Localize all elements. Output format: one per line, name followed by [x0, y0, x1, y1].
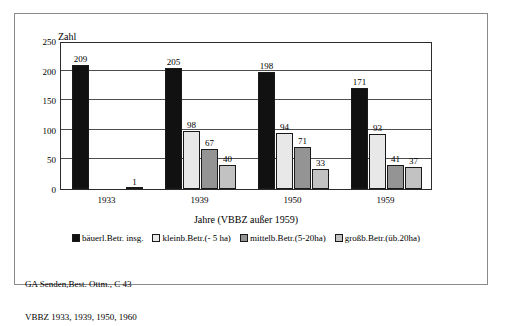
bar	[387, 165, 404, 189]
bar-chart: Zahl 050100150200250 2091205986740198947…	[15, 14, 489, 286]
y-axis-tick-label: 150	[26, 96, 56, 106]
bar	[276, 133, 293, 189]
legend-item: bäuerl.Betr. insg.	[72, 233, 144, 243]
x-axis-tick-label: 1959	[377, 195, 395, 205]
legend-swatch-icon	[240, 234, 248, 242]
bar	[165, 68, 182, 189]
y-axis-title: Zahl	[58, 31, 76, 42]
bar	[72, 65, 89, 189]
bar-value-label: 171	[353, 77, 367, 87]
legend-item: mittelb.Betr.(5-20ha)	[240, 233, 326, 243]
legend-item: kleinb.Betr.(- 5 ha)	[152, 233, 230, 243]
bar	[405, 167, 422, 189]
legend-swatch-icon	[72, 234, 80, 242]
legend-item: großb.Betr.(üb.20ha)	[335, 233, 420, 243]
source-line-1: GA Senden,Best. Ottm., C 43	[25, 279, 137, 290]
bar-value-label: 93	[373, 123, 382, 133]
bar	[183, 131, 200, 189]
bar-value-label: 37	[409, 156, 418, 166]
bar-value-label: 198	[260, 61, 274, 71]
plot-area: 2091205986740198947133171934137	[60, 42, 432, 190]
bar-value-label: 40	[223, 154, 232, 164]
bar	[351, 88, 368, 189]
legend-swatch-icon	[335, 234, 343, 242]
bar-value-label: 209	[74, 54, 88, 64]
bar	[369, 134, 386, 189]
legend-item-label: bäuerl.Betr. insg.	[82, 233, 144, 243]
bar-value-label: 1	[132, 177, 137, 187]
bar	[201, 149, 218, 189]
y-axis-tick-label: 100	[26, 126, 56, 136]
bar-group: 2091	[61, 43, 154, 189]
y-axis-tick-label: 250	[26, 37, 56, 47]
bar-group: 171934137	[340, 43, 433, 189]
bar	[294, 147, 311, 189]
chart-legend: bäuerl.Betr. insg.kleinb.Betr.(- 5 ha)mi…	[60, 233, 432, 243]
bar	[219, 165, 236, 189]
bar	[312, 169, 329, 189]
bar-value-label: 67	[205, 138, 214, 148]
y-axis-tick-label: 50	[26, 155, 56, 165]
figure-frame: Zahl 050100150200250 2091205986740198947…	[14, 13, 488, 285]
source-note: GA Senden,Best. Ottm., C 43 VBBZ 1933, 1…	[25, 257, 137, 326]
bar-value-label: 98	[187, 120, 196, 130]
legend-item-label: großb.Betr.(üb.20ha)	[345, 233, 420, 243]
bar-group: 205986740	[154, 43, 247, 189]
x-axis-title: Jahre (VBBZ außer 1959)	[60, 214, 432, 225]
legend-item-label: mittelb.Betr.(5-20ha)	[250, 233, 326, 243]
bar-value-label: 41	[391, 154, 400, 164]
legend-swatch-icon	[152, 234, 160, 242]
source-line-2: VBBZ 1933, 1939, 1950, 1960	[25, 312, 137, 323]
y-axis-tick-labels: 050100150200250	[23, 42, 56, 190]
y-axis-tick-label: 0	[26, 185, 56, 195]
bar	[258, 72, 275, 189]
x-axis-tick-label: 1939	[191, 195, 209, 205]
y-axis-tick-label: 200	[26, 67, 56, 77]
bar-value-label: 71	[298, 136, 307, 146]
bar-value-label: 205	[167, 57, 181, 67]
x-axis-tick-label: 1933	[98, 195, 116, 205]
x-axis-tick-labels: 1933193919501959	[60, 195, 432, 207]
bar-group: 198947133	[247, 43, 340, 189]
x-axis-tick-label: 1950	[284, 195, 302, 205]
bar-value-label: 33	[316, 158, 325, 168]
legend-item-label: kleinb.Betr.(- 5 ha)	[162, 233, 230, 243]
bar	[126, 187, 143, 189]
bar-value-label: 94	[280, 122, 289, 132]
